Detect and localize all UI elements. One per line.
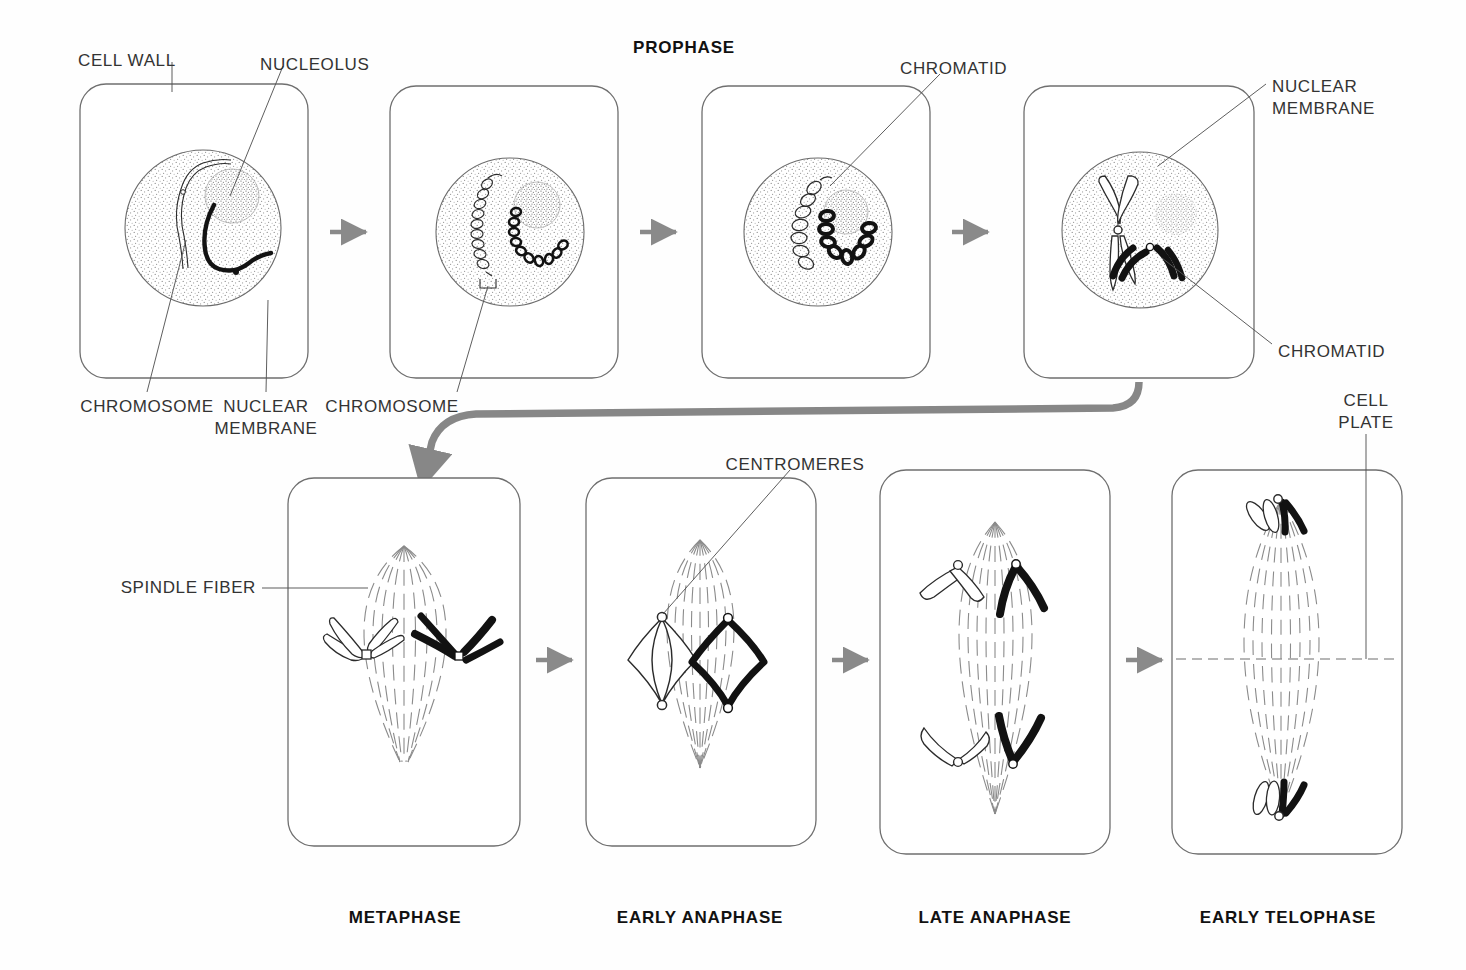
phase-label-early-telophase: EARLY TELOPHASE [1200,908,1376,928]
label-cell-plate-line1: CELL [1344,390,1389,411]
cell-early-prophase [125,150,281,306]
mitosis-diagram: CELL WALL NUCLEOLUS PROPHASE CHROMATID N… [0,0,1466,970]
label-chromosome-left: CHROMOSOME [80,396,214,417]
label-chromatid-right: CHROMATID [1278,341,1385,362]
label-nucleolus: NUCLEOLUS [260,54,369,75]
label-chromatid-top: CHROMATID [900,58,1007,79]
label-spindle-fiber: SPINDLE FIBER [121,577,256,598]
label-nuclear-membrane-right-line1: NUCLEAR [1272,76,1357,97]
diagram-artwork [0,0,1466,970]
label-cell-plate-line2: PLATE [1338,412,1394,433]
label-nuclear-membrane-line2: MEMBRANE [214,418,317,439]
phase-label-early-anaphase: EARLY ANAPHASE [617,908,783,928]
label-cell-wall: CELL WALL [78,50,176,71]
phase-label-late-anaphase: LATE ANAPHASE [918,908,1071,928]
cell-mid-prophase [436,158,584,306]
cell-late-prophase [744,158,892,306]
phase-label-metaphase: METAPHASE [349,908,462,928]
label-nuclear-membrane-right-line2: MEMBRANE [1272,98,1375,119]
cell-end-prophase [1062,152,1218,308]
label-nuclear-membrane-line1: NUCLEAR [223,396,308,417]
label-prophase-title: PROPHASE [633,38,735,58]
label-chromosome-mid: CHROMOSOME [325,396,459,417]
label-centromeres: CENTROMERES [726,454,865,475]
